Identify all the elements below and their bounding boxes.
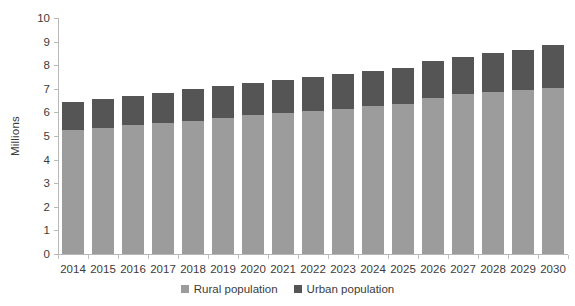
bar-segment-rural[interactable] xyxy=(392,104,414,254)
x-tick-mark xyxy=(448,255,449,259)
y-axis-tick: 10 xyxy=(0,18,58,19)
x-tick-mark xyxy=(328,255,329,259)
bar-segment-rural[interactable] xyxy=(332,109,354,254)
bar-segment-urban[interactable] xyxy=(452,57,474,94)
bar-group[interactable] xyxy=(242,18,264,254)
x-tick-mark xyxy=(508,255,509,259)
bar-group[interactable] xyxy=(482,18,504,254)
bar-segment-urban[interactable] xyxy=(242,83,264,115)
x-axis-label: 2021 xyxy=(268,262,298,276)
x-tick-mark xyxy=(418,255,419,259)
y-tick-label: 4 xyxy=(44,152,50,168)
bar-segment-urban[interactable] xyxy=(122,96,144,124)
x-axis-label: 2022 xyxy=(298,262,328,276)
x-tick-mark xyxy=(118,255,119,259)
bar-group[interactable] xyxy=(392,18,414,254)
plot-area xyxy=(58,18,568,254)
x-axis-label: 2025 xyxy=(388,262,418,276)
y-tick-label: 3 xyxy=(44,175,50,191)
bar-segment-urban[interactable] xyxy=(362,71,384,106)
y-axis-tick: 1 xyxy=(0,230,58,231)
x-axis-label: 2029 xyxy=(508,262,538,276)
x-tick-mark xyxy=(478,255,479,259)
bar-group[interactable] xyxy=(122,18,144,254)
x-tick-mark xyxy=(178,255,179,259)
x-axis-label: 2030 xyxy=(538,262,568,276)
bar-segment-rural[interactable] xyxy=(362,106,384,254)
x-axis-label: 2023 xyxy=(328,262,358,276)
bar-segment-rural[interactable] xyxy=(182,121,204,254)
bar-segment-urban[interactable] xyxy=(542,45,564,88)
bar-group[interactable] xyxy=(152,18,174,254)
bar-segment-urban[interactable] xyxy=(272,80,294,113)
bar-segment-urban[interactable] xyxy=(62,102,84,130)
x-axis-label: 2027 xyxy=(448,262,478,276)
bar-group[interactable] xyxy=(272,18,294,254)
bar-segment-rural[interactable] xyxy=(512,90,534,254)
x-axis-line xyxy=(58,254,568,255)
bar-group[interactable] xyxy=(212,18,234,254)
legend-item[interactable]: Urban population xyxy=(294,283,395,295)
bar-segment-rural[interactable] xyxy=(422,98,444,254)
bar-segment-urban[interactable] xyxy=(152,93,174,123)
bar-group[interactable] xyxy=(182,18,204,254)
bar-group[interactable] xyxy=(362,18,384,254)
bar-segment-rural[interactable] xyxy=(62,130,84,254)
bar-group[interactable] xyxy=(62,18,84,254)
y-tick-label: 1 xyxy=(44,222,50,238)
bar-segment-urban[interactable] xyxy=(392,68,414,104)
bar-segment-rural[interactable] xyxy=(92,128,114,254)
bar-group[interactable] xyxy=(512,18,534,254)
bar-segment-rural[interactable] xyxy=(152,123,174,254)
x-axis-label: 2020 xyxy=(238,262,268,276)
y-axis-tick: 9 xyxy=(0,42,58,43)
y-tick-label: 2 xyxy=(44,199,50,215)
bar-segment-urban[interactable] xyxy=(182,89,204,120)
y-axis-tick: 4 xyxy=(0,160,58,161)
legend-item[interactable]: Rural population xyxy=(181,283,278,295)
bar-segment-rural[interactable] xyxy=(272,113,294,254)
x-tick-mark xyxy=(568,255,569,259)
x-tick-mark xyxy=(298,255,299,259)
bar-segment-rural[interactable] xyxy=(122,125,144,254)
bar-segment-urban[interactable] xyxy=(422,61,444,97)
bar-segment-urban[interactable] xyxy=(512,50,534,90)
x-axis-label: 2024 xyxy=(358,262,388,276)
bar-group[interactable] xyxy=(542,18,564,254)
y-axis-tick: 5 xyxy=(0,136,58,137)
bar-segment-rural[interactable] xyxy=(452,94,474,254)
bar-group[interactable] xyxy=(332,18,354,254)
bar-segment-urban[interactable] xyxy=(212,86,234,117)
bar-segment-rural[interactable] xyxy=(212,118,234,254)
x-axis-label: 2016 xyxy=(118,262,148,276)
legend-swatch-icon xyxy=(181,285,189,293)
x-tick-mark xyxy=(238,255,239,259)
bar-segment-urban[interactable] xyxy=(482,53,504,92)
x-axis-label: 2015 xyxy=(88,262,118,276)
bar-segment-rural[interactable] xyxy=(242,115,264,254)
bar-segment-urban[interactable] xyxy=(332,74,354,108)
bar-segment-rural[interactable] xyxy=(302,111,324,254)
legend-label: Urban population xyxy=(307,283,395,295)
bar-group[interactable] xyxy=(302,18,324,254)
bar-group[interactable] xyxy=(452,18,474,254)
bar-segment-urban[interactable] xyxy=(92,99,114,127)
bar-segment-rural[interactable] xyxy=(482,92,504,254)
bar-group[interactable] xyxy=(92,18,114,254)
x-axis-label: 2017 xyxy=(148,262,178,276)
x-tick-mark xyxy=(148,255,149,259)
x-tick-mark xyxy=(388,255,389,259)
x-axis-label: 2028 xyxy=(478,262,508,276)
bar-group[interactable] xyxy=(422,18,444,254)
y-axis-tick: 0 xyxy=(0,254,58,255)
x-axis-label: 2019 xyxy=(208,262,238,276)
bar-segment-urban[interactable] xyxy=(302,77,324,111)
bar-segment-rural[interactable] xyxy=(542,88,564,254)
chart-legend: Rural populationUrban population xyxy=(0,283,575,295)
x-tick-mark xyxy=(358,255,359,259)
y-axis-tick: 7 xyxy=(0,89,58,90)
y-tick-label: 8 xyxy=(44,57,50,73)
y-axis-tick: 8 xyxy=(0,65,58,66)
legend-swatch-icon xyxy=(294,285,302,293)
x-axis-label: 2026 xyxy=(418,262,448,276)
